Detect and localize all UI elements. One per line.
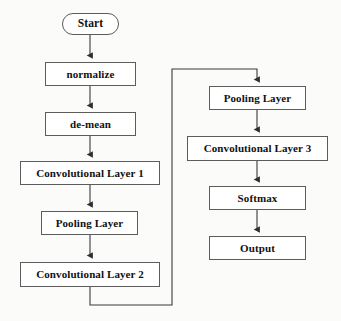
node-convolutional-layer-2-label: Convolutional Layer 2: [36, 269, 144, 280]
node-normalize-label: normalize: [67, 69, 115, 80]
node-convolutional-layer-3[interactable]: Convolutional Layer 3: [187, 136, 328, 161]
node-pooling-layer-1-label: Pooling Layer: [56, 218, 124, 229]
node-convolutional-layer-2[interactable]: Convolutional Layer 2: [20, 262, 160, 287]
node-start-label: Start: [78, 18, 103, 30]
node-softmax[interactable]: Softmax: [209, 186, 306, 210]
node-start[interactable]: Start: [62, 13, 119, 35]
node-pooling-layer-2[interactable]: Pooling Layer: [209, 86, 306, 110]
node-output-label: Output: [240, 243, 275, 254]
node-output[interactable]: Output: [209, 236, 306, 260]
node-normalize[interactable]: normalize: [45, 62, 136, 86]
node-convolutional-layer-3-label: Convolutional Layer 3: [204, 143, 312, 154]
node-convolutional-layer-1[interactable]: Convolutional Layer 1: [20, 161, 160, 185]
node-de-mean-label: de-mean: [70, 119, 111, 130]
node-de-mean[interactable]: de-mean: [45, 112, 136, 136]
flowchart-canvas: Start normalize de-mean Convolutional La…: [0, 0, 341, 321]
node-pooling-layer-2-label: Pooling Layer: [224, 93, 292, 104]
node-softmax-label: Softmax: [238, 193, 278, 204]
node-pooling-layer-1[interactable]: Pooling Layer: [41, 211, 138, 235]
node-convolutional-layer-1-label: Convolutional Layer 1: [36, 168, 144, 179]
